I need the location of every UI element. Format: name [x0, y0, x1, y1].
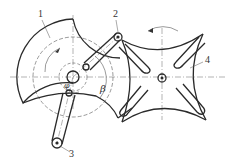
link-arm-3	[52, 93, 75, 148]
geneva-mechanism-diagram: 1 2 3 4 β φ	[0, 0, 235, 166]
label-part-3: 3	[69, 148, 74, 159]
angle-beta-label: β	[99, 83, 106, 94]
geneva-wheel-4	[119, 27, 206, 122]
label-part-4: 4	[205, 54, 210, 65]
label-part-2: 2	[113, 8, 118, 19]
label-part-1: 1	[38, 8, 43, 19]
angle-phi-label: φ	[64, 81, 70, 90]
